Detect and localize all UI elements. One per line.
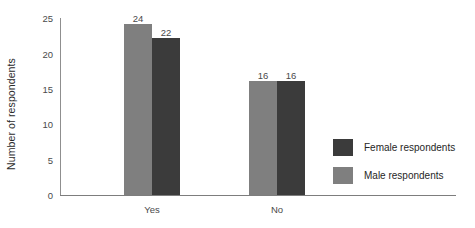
y-tick-label-5: 5 [48, 155, 53, 166]
y-tick-label-20: 20 [42, 49, 53, 60]
legend-swatch-icon-male [333, 167, 353, 184]
y-tick-label-0: 0 [48, 190, 53, 201]
legend-label-male: Male respondents [364, 170, 444, 181]
bar-value-no-male: 16 [258, 70, 269, 81]
legend-label-female: Female respondents [364, 142, 455, 153]
bar-yes-female [152, 38, 180, 195]
bar-value-yes-male: 24 [133, 13, 144, 24]
y-axis-line [60, 18, 61, 196]
bar-yes-male [124, 24, 152, 195]
x-tick-label-yes: Yes [144, 204, 160, 215]
bar-no-female [277, 81, 305, 195]
legend-item-male: Male respondents [333, 164, 455, 186]
bar-no-male [249, 81, 277, 195]
x-axis-line [60, 195, 456, 196]
legend: Female respondents Male respondents [333, 136, 455, 192]
bar-value-yes-female: 22 [161, 27, 172, 38]
x-tick-label-no: No [271, 204, 283, 215]
y-tick-label-15: 15 [42, 84, 53, 95]
bar-chart: Number of respondents 0 5 10 15 20 25 24… [0, 0, 475, 228]
legend-item-female: Female respondents [333, 136, 455, 158]
y-axis-title: Number of respondents [0, 0, 22, 228]
y-tick-label-10: 10 [42, 119, 53, 130]
bar-value-no-female: 16 [286, 70, 297, 81]
legend-swatch-icon-female [333, 139, 353, 156]
y-tick-label-25: 25 [42, 13, 53, 24]
